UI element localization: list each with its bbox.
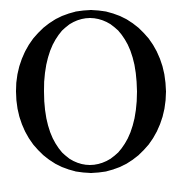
letter-o-glyph <box>0 0 179 185</box>
letter-canvas: O <box>0 0 179 185</box>
